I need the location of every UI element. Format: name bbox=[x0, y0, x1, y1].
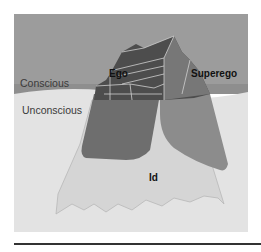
ego-underwater bbox=[82, 94, 161, 160]
unconscious-label: Unconscious bbox=[22, 105, 82, 115]
iceberg-figure: Conscious Unconscious Ego Superego Id bbox=[14, 14, 248, 232]
ego-label: Ego bbox=[109, 69, 128, 79]
conscious-label: Conscious bbox=[20, 78, 69, 88]
superego-label: Superego bbox=[191, 69, 237, 79]
iceberg-illustration bbox=[14, 14, 248, 232]
id-label: Id bbox=[149, 173, 158, 183]
divider-rule bbox=[14, 243, 261, 245]
